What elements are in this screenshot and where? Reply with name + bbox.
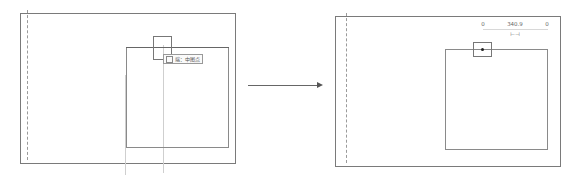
dimension-right-value: 0	[545, 21, 549, 27]
arrow-right-icon	[317, 82, 323, 88]
before-top-edge-guide	[126, 47, 229, 48]
after-dashed-line	[346, 13, 347, 163]
arrow-shaft	[248, 85, 318, 86]
dimension-symbol-icon: ⊢⊣	[510, 31, 520, 37]
dimension-left-value: 0	[481, 21, 485, 27]
snap-tooltip-text: 端：中图点	[175, 55, 200, 63]
snap-tooltip: 端：中图点	[163, 54, 203, 64]
dimension-center-value[interactable]: 340.9	[507, 21, 523, 27]
dimension-line	[483, 29, 548, 30]
before-dashed-line	[27, 10, 28, 160]
endpoint-snap-icon	[166, 56, 173, 63]
snap-point-icon	[481, 48, 484, 51]
after-inner-rectangle	[445, 49, 548, 150]
